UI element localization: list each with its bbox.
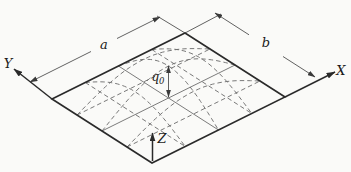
extension-line-b: [185, 14, 221, 33]
y-axis-label: Y: [4, 56, 14, 71]
dimension-line-a: [30, 52, 91, 83]
figure: a b q0 Y X Z: [0, 0, 351, 172]
load-amplitude-label: q0: [151, 70, 165, 86]
z-axis-label: Z: [157, 131, 168, 146]
x-axis-arrow: [285, 72, 335, 97]
dimension-b-label: b: [262, 35, 270, 50]
dimension-line-a: [117, 17, 160, 39]
plate-diagram: a b q0 Y X Z: [0, 0, 351, 172]
extension-line-a: [157, 16, 185, 33]
dimension-a-label: a: [100, 37, 108, 52]
dimension-line-b: [283, 57, 315, 78]
x-axis-label: X: [335, 63, 346, 78]
dimension-line-b: [215, 13, 249, 35]
